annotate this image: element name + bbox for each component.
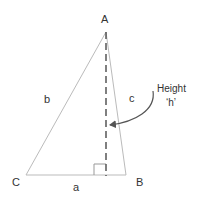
vertex-label-a: A: [101, 13, 109, 25]
vertex-label-c: C: [12, 176, 20, 188]
height-annotation-line2: ‘h’: [166, 97, 176, 108]
side-b-line: [26, 32, 106, 175]
side-c-line: [106, 32, 126, 175]
side-label-c: c: [129, 92, 135, 104]
side-label-a: a: [73, 181, 80, 193]
side-label-b: b: [44, 93, 50, 105]
triangle-diagram: A B C a b c Height ‘h’: [0, 0, 201, 206]
height-annotation-line1: Height: [157, 83, 186, 94]
right-angle-marker: [94, 164, 106, 175]
vertex-label-b: B: [136, 176, 143, 188]
